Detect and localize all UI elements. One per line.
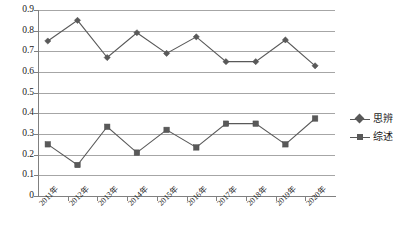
gridline	[38, 113, 335, 114]
y-tick-label: 0.9	[4, 5, 34, 15]
y-tick-label: 0.1	[4, 170, 34, 180]
plot-area	[38, 10, 335, 196]
gridline	[38, 31, 335, 32]
y-axis-line	[38, 10, 39, 197]
gridline	[38, 72, 335, 73]
y-tick	[34, 93, 38, 94]
diamond-marker-icon	[350, 113, 370, 125]
y-tick	[34, 196, 38, 197]
y-tick	[34, 155, 38, 156]
y-tick	[34, 113, 38, 114]
y-tick	[34, 51, 38, 52]
y-tick	[34, 72, 38, 73]
y-tick	[34, 31, 38, 32]
y-tick-label: 0.3	[4, 129, 34, 139]
legend-label-sibian: 思辨	[370, 114, 393, 124]
legend-item-sibian[interactable]: 思辨	[350, 110, 404, 128]
y-tick-label: 0	[4, 191, 34, 201]
y-tick	[34, 134, 38, 135]
gridline	[38, 134, 335, 135]
square-marker-icon	[350, 131, 370, 143]
gridline	[38, 175, 335, 176]
legend-item-zongshu[interactable]: 综述	[350, 128, 404, 146]
y-tick	[34, 10, 38, 11]
y-tick-label: 0.2	[4, 150, 34, 160]
y-tick-label: 0.5	[4, 88, 34, 98]
gridline	[38, 51, 335, 52]
gridline	[38, 93, 335, 94]
y-tick-label: 0.8	[4, 26, 34, 36]
y-tick	[34, 175, 38, 176]
legend-label-zongshu: 综述	[370, 132, 393, 142]
chart-legend: 思辨 综述	[350, 110, 404, 146]
y-axis-labels: 00.10.20.30.40.50.60.70.80.9	[0, 0, 34, 245]
y-tick-label: 0.7	[4, 46, 34, 56]
gridline	[38, 10, 335, 11]
line-chart: 00.10.20.30.40.50.60.70.80.9 2011年2012年2…	[0, 0, 404, 245]
y-tick-label: 0.6	[4, 67, 34, 77]
y-tick-label: 0.4	[4, 108, 34, 118]
gridline	[38, 155, 335, 156]
